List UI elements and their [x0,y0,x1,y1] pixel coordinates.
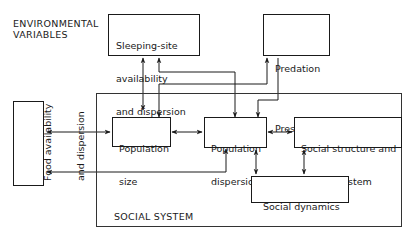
node-text: Predation [275,59,320,79]
node-predation: Predation Pressure [263,14,330,56]
environment-label: ENVIRONMENTAL VARIABLES [13,18,99,40]
node-text: and dispersion [75,104,86,181]
environment-label-line2: VARIABLES [13,29,99,40]
node-text: Sleeping-site [116,40,186,51]
node-text: in groups [263,234,340,236]
node-social-dynamics: Social dynamics in groups [251,176,349,203]
node-text: availability [116,73,186,84]
node-text: and dispersion [116,106,186,117]
social-system-label: SOCIAL SYSTEM [114,211,194,222]
node-text: Food availability [42,104,53,181]
environment-label-line1: ENVIRONMENTAL [13,18,99,29]
node-population-size: Population size [112,117,171,147]
node-social-structure: Social structure and mating system [294,117,402,148]
node-text: Population [119,143,169,154]
node-food: Food availability and dispersion [13,101,44,186]
node-text: Population [211,143,261,154]
node-sleeping-site: Sleeping-site availability and dispersio… [108,14,200,56]
node-text: Social dynamics [263,201,340,212]
node-text: Social structure and [301,143,396,154]
node-population-dispersion: Population dispersion [204,117,267,148]
node-text: size [119,176,169,187]
